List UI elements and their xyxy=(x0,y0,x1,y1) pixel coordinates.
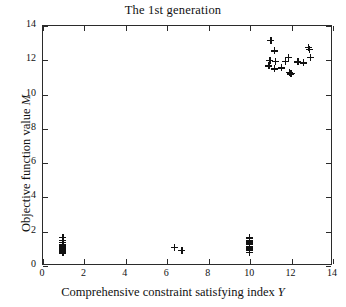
y-tick-right xyxy=(326,163,331,164)
x-tick-bottom xyxy=(209,259,210,264)
x-tick-label: 4 xyxy=(114,267,136,278)
x-tick-bottom xyxy=(84,259,85,264)
data-point-marker xyxy=(300,59,307,66)
x-tick-top xyxy=(292,26,293,31)
y-tick-right xyxy=(326,129,331,130)
y-tick-right xyxy=(326,197,331,198)
y-tick-left xyxy=(43,60,48,61)
y-tick-right xyxy=(326,95,331,96)
y-tick-left xyxy=(43,26,48,27)
x-tick-bottom xyxy=(292,259,293,264)
data-point-marker xyxy=(171,244,178,251)
x-tick-label: 10 xyxy=(238,267,260,278)
x-axis-label-variable: Y xyxy=(278,285,285,299)
data-point-marker xyxy=(271,65,278,72)
y-tick-right xyxy=(326,26,331,27)
x-tick-label: 12 xyxy=(280,267,302,278)
x-tick-label: 2 xyxy=(72,267,94,278)
data-point-marker xyxy=(267,37,274,44)
data-point-marker xyxy=(178,247,185,254)
y-tick-left xyxy=(43,232,48,233)
data-point-marker xyxy=(306,46,313,53)
x-tick-bottom xyxy=(126,259,127,264)
data-point-marker xyxy=(59,249,66,256)
x-tick-bottom xyxy=(43,259,44,264)
x-tick-bottom xyxy=(333,259,334,264)
y-tick-right xyxy=(326,60,331,61)
x-tick-top xyxy=(126,26,127,31)
data-point-marker xyxy=(246,249,253,256)
x-tick-top xyxy=(84,26,85,31)
data-point-marker xyxy=(271,47,278,54)
chart-title: The 1st generation xyxy=(0,3,346,18)
y-tick-left xyxy=(43,95,48,96)
x-tick-top xyxy=(250,26,251,31)
scatter-plot-figure: The 1st generation 024681012140246810121… xyxy=(0,0,346,307)
y-tick-left xyxy=(43,163,48,164)
data-point-marker xyxy=(307,54,314,61)
data-point-marker xyxy=(278,64,285,71)
y-tick-left xyxy=(43,197,48,198)
y-tick-label: 0 xyxy=(10,258,36,269)
y-axis-label-text: Objective function value xyxy=(19,105,33,232)
x-tick-top xyxy=(209,26,210,31)
x-tick-label: 14 xyxy=(321,267,343,278)
y-axis-label: Objective function value M xyxy=(19,95,34,232)
data-point-marker xyxy=(285,54,292,61)
y-axis-label-variable: M xyxy=(19,95,33,105)
y-tick-left xyxy=(43,129,48,130)
x-tick-bottom xyxy=(167,259,168,264)
x-tick-bottom xyxy=(250,259,251,264)
data-point-marker xyxy=(288,70,295,77)
y-tick-label: 12 xyxy=(10,52,36,63)
x-axis-label-text: Comprehensive constraint satisfying inde… xyxy=(61,285,278,299)
y-tick-right xyxy=(326,232,331,233)
x-tick-label: 6 xyxy=(155,267,177,278)
x-tick-label: 8 xyxy=(197,267,219,278)
x-tick-top xyxy=(167,26,168,31)
y-tick-label: 14 xyxy=(10,18,36,29)
x-tick-top xyxy=(333,26,334,31)
x-axis-label: Comprehensive constraint satisfying inde… xyxy=(0,285,346,300)
